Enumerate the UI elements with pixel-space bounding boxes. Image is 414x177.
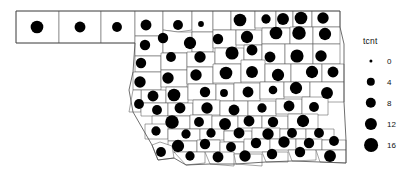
legend-symbol-dot — [365, 118, 377, 130]
county-symbol-dot — [234, 14, 247, 27]
county-symbol-dot — [267, 149, 277, 159]
county-symbol-dot — [190, 69, 201, 80]
county-symbol-dot — [268, 117, 278, 127]
county-symbol-dot — [201, 102, 212, 113]
county-symbol-dot — [112, 22, 122, 32]
county-symbol-dot — [140, 40, 150, 50]
county-symbol-dot — [175, 103, 186, 114]
county-symbol-dot — [328, 67, 339, 78]
county-symbol-dot — [309, 102, 319, 112]
county-symbol-dot — [151, 126, 160, 135]
county-symbol-dot — [213, 34, 223, 44]
county-symbol-dot — [184, 37, 196, 49]
county-symbol-dot — [324, 150, 336, 162]
county-symbol-dot — [297, 115, 309, 127]
county-symbol-dot — [200, 87, 210, 97]
county-symbol-dot — [220, 67, 233, 80]
county-symbol-dot — [287, 128, 297, 138]
legend-label: 16 — [387, 141, 396, 150]
county-symbol-dot — [198, 21, 204, 27]
county-symbol-dot — [194, 117, 204, 127]
county-symbol-dot — [194, 51, 205, 62]
legend-label: 12 — [387, 120, 396, 129]
county-symbol-dot — [269, 86, 278, 95]
county-symbol-dot — [166, 52, 176, 62]
county-symbol-dot — [148, 91, 159, 102]
legend-item: 0 — [357, 52, 414, 70]
legend-symbol-dot — [369, 59, 372, 62]
county-symbol-dot — [136, 58, 146, 68]
county-symbol-dot — [220, 89, 228, 97]
county-symbol-dot — [290, 49, 303, 62]
county-symbol-dot — [229, 105, 240, 116]
county-symbol-dot — [200, 139, 210, 149]
county-symbol-dot — [284, 101, 295, 112]
legend-item: 8 — [357, 94, 414, 112]
county-symbol-dot — [239, 150, 250, 161]
county-symbol-dot — [134, 76, 145, 87]
county-symbol-dot — [262, 128, 273, 139]
legend-item: 4 — [357, 73, 414, 91]
county-symbol-dot — [317, 12, 328, 23]
legend-item: 12 — [357, 115, 414, 133]
legend-symbol-dot — [367, 78, 375, 86]
county-symbol-dot — [156, 147, 166, 157]
county-symbol-dot — [261, 14, 270, 23]
legend-symbol-dot — [364, 138, 378, 152]
county-symbol-dot — [247, 45, 258, 56]
county-symbol-dot — [244, 116, 255, 127]
county-symbol-dot — [319, 28, 331, 40]
county-symbol-dot — [241, 31, 253, 43]
county-symbol-dot — [321, 87, 333, 99]
county-symbol-dot — [173, 20, 183, 30]
county-symbol-dot — [134, 99, 144, 109]
county-symbol-dot — [290, 82, 302, 94]
county-symbol-dot — [315, 50, 326, 61]
county-symbol-dot — [295, 12, 308, 25]
county-symbol-dot — [246, 66, 258, 78]
county-symbol-dot — [272, 69, 284, 81]
county-symbol-dot — [206, 128, 215, 137]
county-symbol-dot — [213, 152, 224, 163]
county-symbol-dot — [162, 72, 173, 83]
county-symbol-dot — [185, 151, 194, 160]
county-symbol-dot — [31, 21, 44, 34]
county-symbol-dot — [158, 33, 168, 43]
county-symbol-dot — [304, 138, 314, 148]
legend: tcnt 0481216 — [357, 36, 414, 144]
county-symbol-dot — [314, 128, 324, 138]
county-symbol-dot — [226, 142, 236, 152]
county-symbol-dot — [292, 26, 305, 39]
legend-label: 0 — [387, 57, 391, 66]
county-symbol-dot — [225, 46, 238, 59]
county-symbol-dot — [234, 128, 245, 139]
county-symbol-dot — [168, 89, 181, 102]
legend-symbol-dot — [366, 98, 376, 108]
oklahoma-county-map — [0, 0, 360, 177]
county-symbol-dot — [141, 20, 152, 31]
county-symbol-dot — [295, 147, 305, 157]
legend-label: 8 — [387, 99, 391, 108]
county-symbol-dot — [270, 27, 283, 40]
figure-canvas: tcnt 0481216 — [0, 0, 414, 177]
legend-title: tcnt — [363, 36, 378, 46]
county-symbol-dot — [165, 115, 178, 128]
county-symbol-dot — [251, 138, 261, 148]
county-symbol-dot — [329, 136, 339, 146]
legend-label: 4 — [387, 78, 391, 87]
county-symbol-dot — [172, 140, 184, 152]
county-symbol-dot — [277, 13, 289, 25]
legend-item: 16 — [357, 136, 414, 154]
county-symbol-dot — [152, 105, 162, 115]
county-symbol-dot — [265, 52, 276, 63]
county-symbol-dot — [219, 118, 231, 130]
county-symbol-dot — [181, 129, 190, 138]
county-symbol-dot — [306, 66, 318, 78]
county-symbol-dot — [278, 136, 289, 147]
county-symbol-dot — [75, 22, 86, 33]
county-symbol-dot — [257, 103, 266, 112]
county-symbol-dot — [243, 87, 254, 98]
